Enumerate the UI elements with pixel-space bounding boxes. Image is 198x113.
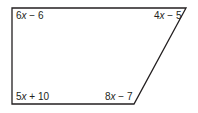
angle-label-top-left: 6x − 6: [16, 11, 44, 21]
trapezoid-outline: [12, 8, 186, 104]
angle-label-bottom-left: 5x + 10: [16, 92, 49, 102]
angle-label-bottom-right: 8x − 7: [105, 92, 133, 102]
angle-rest: + 10: [27, 91, 50, 102]
angle-rest: − 5: [165, 10, 182, 21]
angle-label-top-right: 4x − 5: [154, 11, 182, 21]
angle-rest: − 6: [27, 10, 44, 21]
angle-rest: − 7: [116, 91, 133, 102]
